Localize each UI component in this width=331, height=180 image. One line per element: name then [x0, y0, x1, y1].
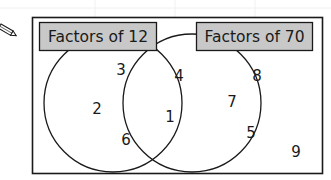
pencil-icon: [0, 24, 18, 38]
left-only-value: 6: [121, 131, 131, 149]
set-label-right-text: Factors of 70: [204, 28, 304, 46]
outside-value: 9: [291, 143, 301, 161]
set-label-left: Factors of 12: [40, 23, 157, 51]
set-circle-right: [123, 34, 261, 172]
venn-diagram: Factors of 12 Factors of 70 3 2 6 4 1 8 …: [0, 0, 331, 180]
intersection-value: 4: [174, 67, 184, 85]
left-only-value: 3: [116, 61, 126, 79]
intersection-value: 1: [165, 108, 175, 126]
set-label-left-text: Factors of 12: [48, 28, 148, 46]
right-only-value: 8: [252, 67, 262, 85]
background-grid: [0, 0, 331, 17]
right-only-value: 7: [227, 93, 237, 111]
right-only-value: 5: [246, 124, 256, 142]
set-label-right: Factors of 70: [197, 23, 313, 51]
left-only-value: 2: [92, 100, 102, 118]
set-circle-left: [44, 34, 182, 172]
